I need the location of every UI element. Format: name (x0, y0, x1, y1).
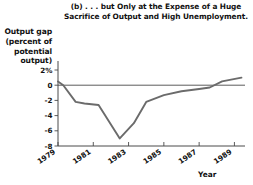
x-tick-label: 1987 (177, 147, 199, 166)
x-tick-label: 1985 (141, 147, 163, 166)
x-tick-label: 1983 (106, 147, 128, 166)
y-tick-label: 2% (40, 66, 52, 75)
x-tick-label: 1981 (71, 147, 93, 166)
y-tick-label: -6 (45, 126, 53, 135)
x-tick-label: 1989 (212, 147, 234, 166)
y-tick-label: 0 (47, 81, 52, 90)
y-tick-group: 2%0-2-4-6-8 (40, 66, 58, 151)
output-gap-line (58, 78, 241, 139)
plot-area: 2%0-2-4-6-8 197919811983198519871989 (0, 0, 253, 185)
x-tick-label: 1979 (35, 147, 57, 166)
x-axis: 197919811983198519871989 (35, 142, 245, 166)
y-tick-label: -2 (45, 96, 53, 105)
figure-panel-b: (b) . . . but Only at the Expense of a H… (0, 0, 253, 185)
y-axis: 2%0-2-4-6-8 (40, 61, 58, 151)
y-tick-label: -4 (45, 111, 53, 120)
